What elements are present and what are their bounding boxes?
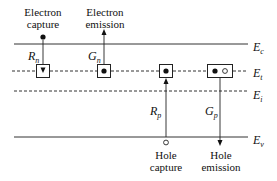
- hole-circle-icon: [164, 140, 169, 145]
- label-line-2: capture: [146, 161, 186, 173]
- hole-capture-label: Hole capture: [146, 149, 186, 173]
- trap-box-double: [208, 65, 233, 78]
- rate-subscript: n: [35, 56, 39, 65]
- rate-symbol: G: [88, 49, 97, 63]
- rate-symbol: G: [205, 104, 214, 118]
- electron-dot-icon: [40, 34, 45, 39]
- level-subscript: v: [260, 140, 264, 149]
- electron-capture-label: Electron capture: [18, 6, 68, 30]
- label-line-2: capture: [18, 18, 68, 30]
- label-line-1: Hole: [146, 149, 186, 161]
- label-line-1: Electron: [18, 6, 68, 18]
- rate-subscript: n: [97, 56, 101, 65]
- rate-label-gn: Gn: [88, 50, 101, 67]
- down-arrowhead-icon: [218, 140, 223, 146]
- rate-subscript: p: [214, 111, 218, 120]
- electron-emission-label: Electron emission: [80, 6, 130, 30]
- level-subscript: c: [260, 47, 264, 56]
- label-line-2: emission: [80, 18, 130, 30]
- rate-label-rp: Rp: [150, 105, 161, 122]
- rate-label-gp: Gp: [205, 105, 218, 122]
- hole-emission-label: Hole emission: [196, 149, 246, 173]
- electron-dot-icon: [101, 68, 106, 73]
- level-label-ev: Ev: [253, 134, 264, 151]
- label-line-1: Hole: [196, 149, 246, 161]
- label-line-1: Electron: [80, 6, 130, 18]
- level-label-ei: Ei: [253, 89, 263, 106]
- hole-circle-icon: [223, 69, 228, 74]
- level-label-ec: Ec: [253, 41, 264, 58]
- level-label-et: Et: [253, 67, 263, 84]
- rate-label-rn: Rn: [28, 50, 39, 67]
- up-arrowhead-icon: [164, 78, 169, 84]
- label-line-2: emission: [196, 161, 246, 173]
- level-subscript: t: [260, 73, 262, 82]
- electron-dot-icon: [163, 68, 168, 73]
- level-subscript: i: [260, 95, 262, 104]
- electron-dot-icon: [212, 68, 217, 73]
- rate-subscript: p: [157, 111, 161, 120]
